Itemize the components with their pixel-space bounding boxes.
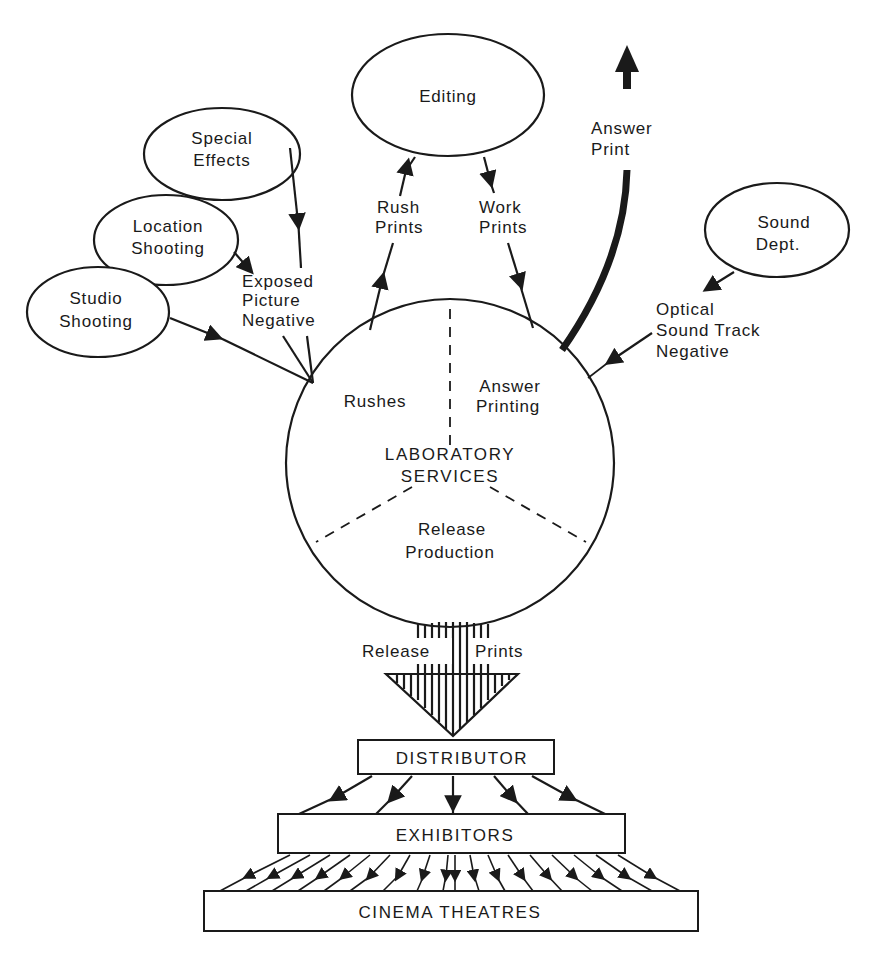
answer-print-label-1: Answer: [591, 119, 653, 138]
distributor-box: DISTRIBUTOR: [358, 740, 554, 774]
sound-dept-label-2: Dept.: [756, 235, 801, 254]
rush-prints-label-1: Rush: [377, 198, 420, 217]
location-shooting-label-2: Shooting: [131, 239, 205, 258]
answer-print-label-2: Print: [591, 140, 630, 159]
node-sound-dept: Sound Dept.: [705, 183, 849, 277]
sound-dept-label-1: Sound: [757, 213, 810, 232]
lab-title-2: SERVICES: [401, 467, 499, 486]
special-effects-label-1: Special: [191, 129, 252, 148]
diagram-canvas: Special Effects Location Shooting Studio…: [0, 0, 883, 971]
location-shooting-label-1: Location: [133, 217, 204, 236]
sector-answer-label-2: Printing: [476, 397, 540, 416]
special-effects-label-2: Effects: [193, 151, 250, 170]
exhibitors-label: EXHIBITORS: [396, 826, 515, 845]
work-prints-label-2: Prints: [479, 218, 527, 237]
edge-answer-print: Answer Print: [562, 45, 653, 350]
prints-label: Prints: [475, 642, 523, 661]
exposed-label-2: Picture: [242, 291, 301, 310]
distributor-to-exhibitors-arrows: [299, 776, 605, 814]
cinema-theatres-label: CINEMA THEATRES: [358, 903, 541, 922]
distributor-label: DISTRIBUTOR: [396, 749, 529, 768]
node-special-effects: Special Effects: [144, 108, 300, 200]
lab-title-1: LABORATORY: [385, 445, 515, 464]
edge-sound-dept: Optical Sound Track Negative: [588, 272, 760, 378]
release-prints-arrow: Release Prints: [360, 622, 548, 736]
work-prints-label-1: Work: [479, 198, 522, 217]
exhibitors-to-cinemas-arrows: [220, 855, 680, 891]
sector-release-label-1: Release: [418, 520, 486, 539]
node-editing: Editing: [352, 34, 544, 156]
exposed-label-1: Exposed: [242, 272, 314, 291]
optical-label-3: Negative: [656, 342, 730, 361]
sector-rushes-label: Rushes: [344, 392, 406, 411]
optical-label-1: Optical: [656, 300, 715, 319]
exposed-label-3: Negative: [242, 311, 316, 330]
editing-label: Editing: [419, 87, 477, 106]
studio-shooting-label-2: Shooting: [59, 312, 133, 331]
rush-prints-label-2: Prints: [375, 218, 423, 237]
release-label: Release: [362, 642, 430, 661]
exhibitors-box: EXHIBITORS: [278, 814, 625, 853]
studio-shooting-label-1: Studio: [69, 289, 122, 308]
cinema-theatres-box: CINEMA THEATRES: [204, 891, 698, 931]
exposed-negative-label: Exposed Picture Negative: [242, 272, 316, 330]
sector-release-label-2: Production: [405, 543, 494, 562]
node-studio-shooting: Studio Shooting: [27, 267, 169, 357]
optical-label-2: Sound Track: [656, 321, 760, 340]
sector-answer-label-1: Answer: [479, 377, 541, 396]
arrow-up-icon: [615, 45, 639, 72]
edge-location-shooting: [234, 252, 248, 268]
